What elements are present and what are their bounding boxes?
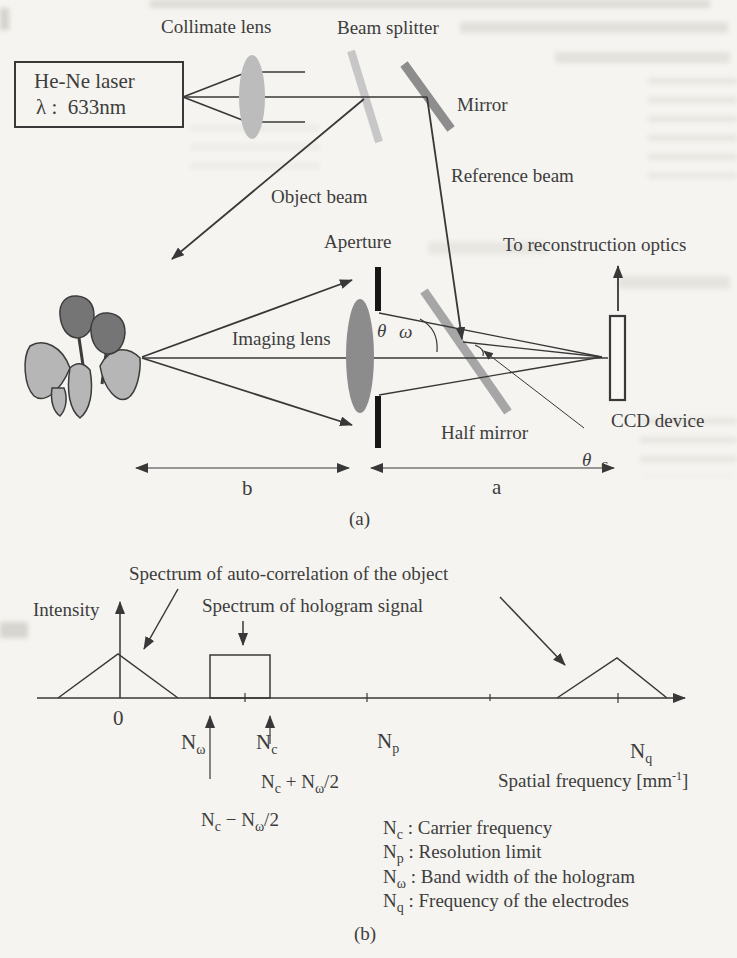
imaging-lens [346,299,374,413]
beam-splitter-label: Beam splitter [337,18,439,39]
mirror-label: Mirror [457,95,508,116]
theta-angle-label: θ [377,321,386,342]
half-mirror-label: Half mirror [441,423,528,444]
n-omega-sub: ω [196,742,205,757]
object-beam-label: Object beam [271,187,368,208]
minus-marker-tail: /2 [264,809,279,830]
tulip-leaf [68,364,91,418]
legend-line-electrode-frequency: Nq : Frequency of the electrodes [364,870,629,936]
to-reconstruction-optics-label: To reconstruction optics [503,235,686,256]
theta-c-subscript: c [601,456,608,472]
autocorrelation-spectrum-triangle [58,654,178,698]
laser-name-label: He-Ne laser [34,70,135,93]
spatial-frequency-text: Spatial frequency [mm [498,770,672,791]
dimension-b-label: b [242,477,253,500]
converging-ray-top [379,313,602,357]
nc-minus-half-bandwidth-label: Nc − Nω/2 [182,789,279,855]
scanned-figure-page: Collimate lens Beam splitter He-Ne laser… [0,0,737,958]
object-ray-bottom [142,358,352,425]
theta-c-symbol: θ [582,449,591,470]
imaging-lens-label: Imaging lens [232,329,331,350]
plus-marker-omega-sub: ω [315,781,324,796]
collimate-lens [239,55,265,139]
collimate-lens-label: Collimate lens [161,17,271,38]
tick-label-n-omega: Nω [160,708,205,781]
theta-c-angle-arc [475,345,483,356]
tulip-leaf [100,350,140,400]
plus-marker-tail: /2 [324,771,339,792]
minus-marker-mid: − N [221,809,255,830]
aperture-bar-bottom [375,396,381,448]
aperture-label: Aperture [324,232,392,253]
aperture-bar-top [375,267,381,311]
hologram-annotation: Spectrum of hologram signal [202,596,423,617]
dimension-a-label: a [492,476,501,499]
n-p-sub: p [392,741,399,756]
n-omega-base: N [181,730,196,754]
legend-3-sub: q [397,900,404,915]
tulip-object [25,296,140,418]
panel-b-caption: (b) [354,924,376,945]
tick-label-zero: 0 [113,707,124,730]
spatial-frequency-bracket: ] [682,770,688,791]
autocorr-annotation-arrow-right [500,597,565,665]
tulip-flower [91,313,125,354]
autocorrelation-annotation: Spectrum of auto-correlation of the obje… [129,564,448,585]
minus-marker-omega-sub: ω [255,819,264,834]
legend-3-base: N [383,890,397,911]
theta-c-label: θc [563,429,608,492]
n-p-base: N [377,729,392,753]
legend-3-text: : Frequency of the electrodes [404,890,629,911]
autocorr-annotation-arrow-left [144,589,178,649]
electrode-frequency-triangle [557,658,667,698]
ccd-device-label: CCD device [611,411,704,432]
minus-marker-n: N [201,809,215,830]
tick-label-n-p: Np [356,707,399,780]
ccd-device [610,316,625,400]
tulip-flower [60,296,94,338]
intensity-axis-label: Intensity [33,600,100,621]
plus-marker-mid: + N [281,771,315,792]
panel-a-caption: (a) [349,509,370,530]
omega-angle-label: ω [399,322,412,343]
hologram-signal-spectrum-rect [210,655,270,698]
tulip-leaf [51,388,66,416]
laser-wavelength-label: λ : 633nm [36,96,126,119]
reference-beam-label: Reference beam [451,166,574,187]
spatial-frequency-exponent: -1 [672,769,682,783]
